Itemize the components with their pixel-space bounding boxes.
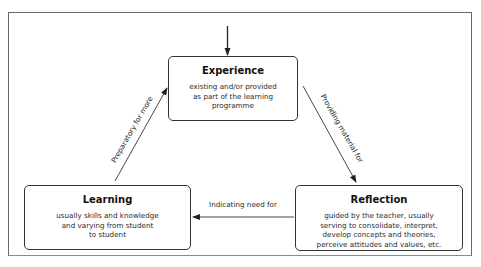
node-experience: Experience existing and/or provided as p… — [168, 56, 298, 121]
node-description: existing and/or provided as part of the … — [169, 82, 297, 111]
node-title: Learning — [25, 194, 190, 206]
node-reflection: Reflection guided by the teacher, usuall… — [295, 185, 463, 251]
node-title: Experience — [169, 65, 297, 77]
edge-label-indicating-need: Indicating need for — [196, 200, 290, 209]
node-learning: Learning usually skills and knowledge an… — [24, 185, 191, 250]
node-title: Reflection — [296, 194, 462, 206]
node-description: usually skills and knowledge and varying… — [25, 211, 190, 240]
node-description: guided by the teacher, usually serving t… — [296, 211, 462, 249]
